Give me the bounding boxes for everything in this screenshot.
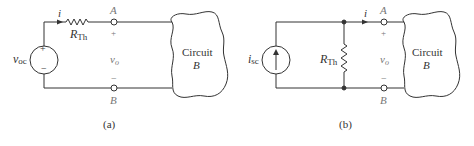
source-arrow-icon	[273, 49, 279, 55]
caption-b: (b)	[339, 118, 352, 131]
current-label: i	[364, 7, 367, 19]
vo-label: vo	[380, 53, 389, 67]
source-minus: −	[41, 63, 47, 74]
current-arrow-icon	[362, 20, 368, 25]
terminal-b-icon	[381, 85, 387, 91]
minus-label: −	[381, 73, 387, 84]
terminal-b-icon	[111, 85, 117, 91]
circuit-label: Circuit	[182, 46, 213, 58]
rth-label: RTh	[69, 27, 88, 42]
plus-label: +	[111, 28, 116, 38]
junction-top-icon	[342, 20, 346, 24]
voc-label: voc	[13, 52, 27, 66]
rth-label: RTh	[319, 52, 338, 67]
circuit-b-label: B	[423, 59, 430, 71]
terminal-a-icon	[111, 19, 117, 25]
terminal-b-label: B	[380, 94, 387, 106]
isc-label: isc	[248, 52, 259, 66]
current-label: i	[58, 7, 61, 19]
terminal-a-label: A	[379, 4, 387, 16]
resistor-rth-icon	[341, 44, 347, 72]
minus-label: −	[111, 73, 117, 84]
circuit-label: Circuit	[412, 46, 443, 58]
junction-bottom-icon	[342, 86, 346, 90]
plus-label: +	[381, 28, 386, 38]
terminal-a-icon	[381, 19, 387, 25]
source-plus: +	[40, 43, 46, 54]
vo-label: vo	[110, 53, 119, 67]
resistor-rth-icon	[66, 19, 88, 25]
caption-a: (a)	[103, 118, 116, 131]
circuit-diagram: + − voc i RTh A + vo − B Circuit B (a)	[0, 0, 474, 146]
terminal-a-label: A	[109, 4, 117, 16]
current-arrow-icon	[57, 20, 63, 25]
terminal-b-label: B	[110, 94, 117, 106]
circuit-b-label: B	[193, 59, 200, 71]
